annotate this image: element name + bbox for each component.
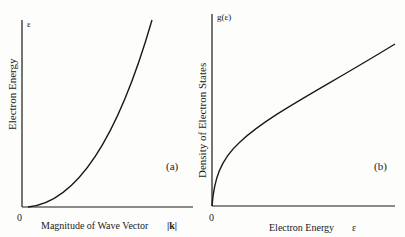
x-symbol-b: ε [352, 222, 356, 233]
curve-parabola [28, 20, 152, 207]
panel-tag-b: (b) [374, 160, 387, 173]
y-label-b: Density of Electron States [196, 63, 208, 178]
figure: ε Electron Energy 0 Magnitude of Wave Ve… [0, 0, 405, 237]
panel-a: ε Electron Energy 0 Magnitude of Wave Ve… [6, 19, 193, 231]
x-label-a: Magnitude of Wave Vector [41, 220, 149, 231]
curve-sqrt [212, 44, 395, 206]
panel-tag-a: (a) [166, 160, 179, 173]
y-symbol-b: g(ε) [217, 12, 231, 22]
origin-b: 0 [209, 212, 214, 223]
panel-b: g(ε) Density of Electron States 0 Electr… [196, 12, 395, 233]
y-symbol-a: ε [27, 19, 31, 29]
origin-a: 0 [17, 212, 22, 223]
x-symbol-a: |k| [167, 220, 177, 231]
x-label-b: Electron Energy [269, 222, 334, 233]
y-label-a: Electron Energy [6, 58, 18, 130]
